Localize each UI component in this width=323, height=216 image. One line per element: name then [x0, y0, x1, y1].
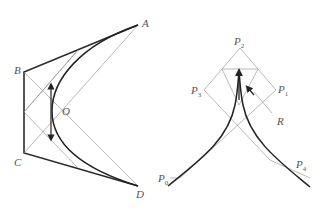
label-p0: P0	[157, 172, 169, 187]
label-a: A	[141, 17, 149, 29]
label-r: R	[276, 115, 284, 127]
label-p4: P4	[295, 158, 307, 173]
diagram-canvas: A B C D O P2 P1 P3 R P0 P	[0, 0, 323, 216]
label-d: D	[135, 188, 144, 200]
arrow-diagonal-icon	[248, 88, 254, 95]
left-diagram: A B C D O	[14, 17, 149, 200]
curve-left-branch	[168, 72, 239, 186]
label-b: B	[14, 64, 21, 76]
control-polygon-abcd	[24, 25, 138, 186]
right-diagram: P2 P1 P3 R P0 P4	[157, 35, 310, 187]
r-line	[254, 92, 272, 113]
label-o: O	[62, 105, 70, 117]
label-c: C	[14, 156, 22, 168]
label-p3: P3	[190, 84, 202, 99]
construction-lines-right	[170, 48, 310, 178]
label-p1: P1	[277, 83, 289, 98]
label-p2: P2	[233, 35, 245, 50]
